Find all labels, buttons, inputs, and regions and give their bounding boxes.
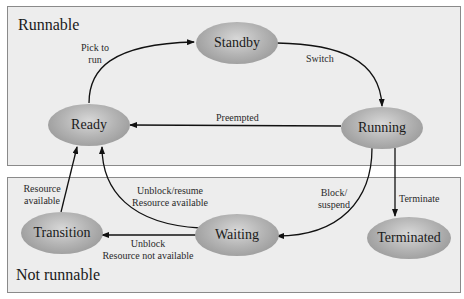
label-resource-available: Resource available (20, 183, 64, 207)
state-label-transition: Transition (33, 225, 90, 241)
state-ready: Ready (48, 104, 130, 146)
state-label-terminated: Terminated (377, 230, 441, 246)
state-transition: Transition (21, 212, 103, 254)
label-terminate: Terminate (399, 193, 439, 205)
state-label-ready: Ready (71, 117, 107, 133)
state-label-standby: Standby (214, 35, 260, 51)
label-block-suspend: Block/ suspend (314, 187, 354, 211)
label-unblock-resume: Unblock/resume Resource available (130, 185, 210, 209)
label-unblock-not-available: Unblock Resource not available (100, 238, 196, 262)
state-waiting: Waiting (195, 214, 279, 256)
state-label-waiting: Waiting (215, 227, 259, 243)
state-running: Running (341, 107, 423, 149)
label-switch: Switch (306, 53, 334, 65)
state-standby: Standby (196, 22, 278, 64)
label-pick-to-run: Pick to run (74, 42, 116, 66)
state-terminated: Terminated (367, 217, 451, 259)
state-label-running: Running (358, 120, 406, 136)
edge-preempted (130, 125, 341, 126)
label-preempted: Preempted (216, 112, 259, 124)
